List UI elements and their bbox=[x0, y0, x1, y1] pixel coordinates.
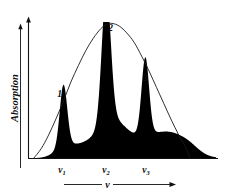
spectrum-figure: Absorption 1 2 3 ν1 ν2 ν3 ν bbox=[0, 0, 228, 193]
y-axis-arrowhead bbox=[26, 17, 31, 23]
xtick-nu1-sub: 1 bbox=[62, 169, 65, 176]
spectrum-plot: Absorption 1 2 3 ν1 ν2 ν3 ν bbox=[0, 0, 228, 193]
xtick-label-nu2: ν2 bbox=[102, 165, 110, 176]
xtick-nu2-sub: 2 bbox=[105, 169, 110, 176]
ylabel-arrowhead bbox=[18, 24, 22, 30]
y-axis-label: Absorption bbox=[9, 74, 20, 123]
peak-label-3: 3 bbox=[142, 73, 148, 83]
xlabel-arrowhead bbox=[170, 182, 177, 187]
xtick-label-nu3: ν3 bbox=[142, 165, 150, 176]
peak-label-2: 2 bbox=[107, 23, 113, 33]
xtick-label-nu1: ν1 bbox=[58, 165, 65, 176]
peak-label-1: 1 bbox=[57, 89, 62, 99]
x-axis-label: ν bbox=[105, 179, 110, 190]
xtick-nu3-sub: 3 bbox=[145, 169, 150, 176]
